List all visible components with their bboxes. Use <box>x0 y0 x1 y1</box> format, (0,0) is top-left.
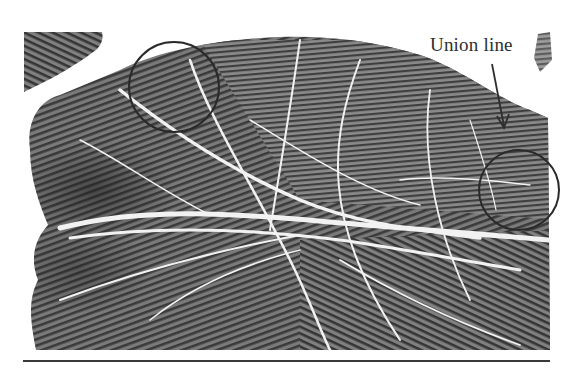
palm-print-figure: Union line <box>0 0 574 369</box>
top-right-fragment <box>534 32 552 72</box>
union-line-label: Union line <box>430 34 513 56</box>
figure-bottom-rule <box>23 360 550 362</box>
